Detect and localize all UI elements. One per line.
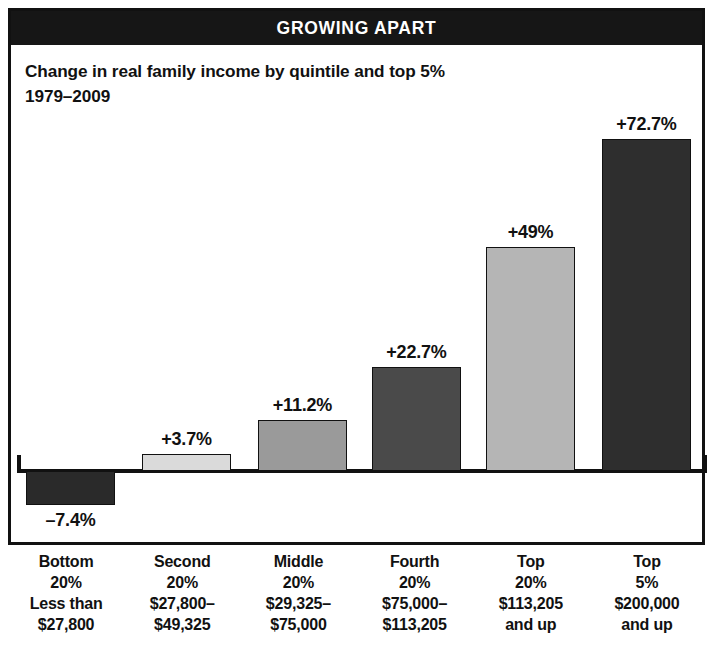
category-1-line-3: Less than <box>8 593 124 614</box>
axis-tick-right <box>703 455 707 473</box>
category-2-line-3: $27,800– <box>124 593 240 614</box>
bar-6 <box>602 139 691 471</box>
category-6-line-2: 5% <box>589 572 705 593</box>
category-4-line-4: $113,205 <box>357 614 473 635</box>
bar-value-label-4: +22.7% <box>372 342 461 363</box>
category-3-line-4: $75,000 <box>240 614 356 635</box>
bar-value-label-5: +49% <box>486 222 575 243</box>
category-label-5: Top20%$113,205and up <box>473 551 589 643</box>
category-2-line-4: $49,325 <box>124 614 240 635</box>
category-3-line-1: Middle <box>240 551 356 572</box>
category-3-line-3: $29,325– <box>240 593 356 614</box>
category-2-line-2: 20% <box>124 572 240 593</box>
category-5-line-1: Top <box>473 551 589 572</box>
category-2-line-1: Second <box>124 551 240 572</box>
category-5-line-3: $113,205 <box>473 593 589 614</box>
category-1-line-1: Bottom <box>8 551 124 572</box>
category-1-line-4: $27,800 <box>8 614 124 635</box>
chart-page: GROWING APART Change in real family inco… <box>0 0 713 645</box>
category-6-line-1: Top <box>589 551 705 572</box>
bar-value-label-3: +11.2% <box>258 395 347 416</box>
bar-2 <box>142 454 231 471</box>
category-4-line-1: Fourth <box>357 551 473 572</box>
category-5-line-4: and up <box>473 614 589 635</box>
category-axis-labels: Bottom20%Less than$27,800Second20%$27,80… <box>8 551 705 643</box>
bar-value-label-1: –7.4% <box>26 510 115 531</box>
figure-frame: GROWING APART Change in real family inco… <box>8 8 705 545</box>
bar-3 <box>258 420 347 471</box>
category-label-6: Top5%$200,000and up <box>589 551 705 643</box>
category-4-line-2: 20% <box>357 572 473 593</box>
bar-value-label-6: +72.7% <box>602 114 691 135</box>
bar-1 <box>26 471 115 505</box>
category-6-line-3: $200,000 <box>589 593 705 614</box>
category-label-1: Bottom20%Less than$27,800 <box>8 551 124 643</box>
category-label-4: Fourth20%$75,000–$113,205 <box>357 551 473 643</box>
bar-4 <box>372 367 461 471</box>
category-3-line-2: 20% <box>240 572 356 593</box>
category-5-line-2: 20% <box>473 572 589 593</box>
bar-5 <box>486 247 575 471</box>
category-1-line-2: 20% <box>8 572 124 593</box>
category-label-2: Second20%$27,800–$49,325 <box>124 551 240 643</box>
category-label-3: Middle20%$29,325–$75,000 <box>240 551 356 643</box>
axis-tick-left <box>17 455 21 473</box>
bar-value-label-2: +3.7% <box>142 429 231 450</box>
category-6-line-4: and up <box>589 614 705 635</box>
category-4-line-3: $75,000– <box>357 593 473 614</box>
plot-area: –7.4%+3.7%+11.2%+22.7%+49%+72.7% <box>11 11 702 542</box>
